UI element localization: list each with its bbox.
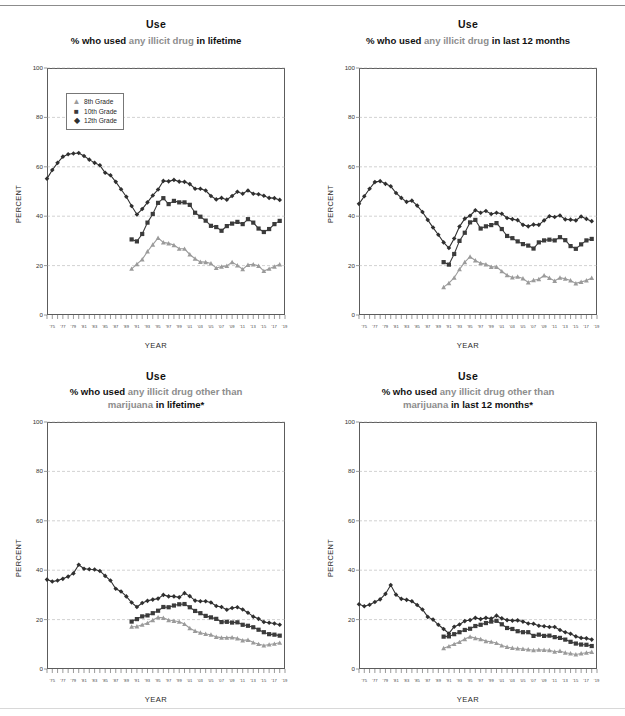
triangle-up-icon: ▲: [71, 97, 82, 106]
series-12th-grade: [357, 179, 594, 251]
series-12th-grade: [45, 151, 282, 217]
series-10th-grade: [442, 218, 594, 267]
chart-panel-illicit-annual: Use% who used any illicit drug in last 1…: [312, 8, 624, 360]
legend-item: ■10th Grade: [71, 107, 117, 117]
legend-item-label: 10th Grade: [84, 108, 117, 115]
figure-footnote: [4, 709, 620, 716]
series-12th-grade: [357, 583, 594, 642]
top-divider-rule: [0, 5, 625, 6]
legend-item-label: 12th Grade: [84, 117, 117, 124]
chart-panel-illicit-lifetime: Use% who used any illicit drug in lifeti…: [0, 8, 312, 360]
series-8th-grade: [129, 236, 282, 274]
diamond-icon: ◆: [71, 116, 82, 125]
series-8th-grade: [441, 634, 594, 656]
chart-svg: [312, 360, 624, 712]
legend-item: ◆12th Grade: [71, 116, 117, 126]
chart-svg: [0, 8, 312, 360]
chart-legend: ▲8th Grade■10th Grade◆12th Grade: [66, 93, 124, 130]
chart-panel-other-lifetime: Use% who used any illicit drug other tha…: [0, 360, 312, 712]
legend-item: ▲8th Grade: [71, 97, 117, 107]
legend-item-label: 8th Grade: [84, 98, 113, 105]
series-10th-grade: [130, 196, 282, 243]
chart-svg: [0, 360, 312, 712]
square-icon: ■: [71, 107, 82, 116]
series-8th-grade: [441, 254, 594, 289]
chart-panel-other-annual: Use% who used any illicit drug other tha…: [312, 360, 624, 712]
chart-svg: [312, 8, 624, 360]
